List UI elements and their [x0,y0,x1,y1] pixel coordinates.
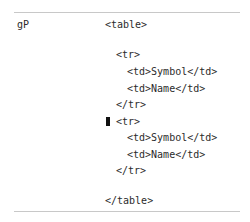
bottom-divider [14,211,240,212]
code-line-tr-open: <tr> [116,49,140,61]
code-line-td-name: <td>Name</td> [127,83,205,95]
code-line-tr-close: </tr> [116,99,146,111]
code-line-table-close: </table> [105,195,153,207]
code-line-tr-close: </tr> [116,165,146,177]
code-line-table-open: <table> [105,19,147,31]
text-cursor [106,117,110,126]
code-block[interactable]: <table> <tr> <td>Symbol</td> <td>Name</t… [0,0,250,222]
code-line-tr-open: <tr> [116,116,140,128]
code-line-td-name: <td>Name</td> [127,149,205,161]
code-line-td-symbol: <td>Symbol</td> [127,66,217,78]
code-line-td-symbol: <td>Symbol</td> [127,132,217,144]
